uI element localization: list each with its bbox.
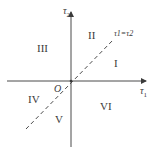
region-label-iii: III (37, 43, 48, 54)
y-axis-label: τ2 (63, 6, 70, 19)
axes-diagram (0, 0, 158, 152)
origin-label: O (54, 84, 61, 94)
region-label-iv: IV (28, 94, 40, 105)
region-label-i: I (114, 58, 118, 69)
region-label-vi: VI (100, 101, 112, 112)
origin-point (70, 80, 73, 83)
region-label-v: V (55, 114, 63, 125)
x-axis-label: τ1 (140, 86, 147, 99)
diagonal-label: τ1=τ2 (114, 30, 133, 38)
region-label-ii: II (88, 30, 95, 41)
